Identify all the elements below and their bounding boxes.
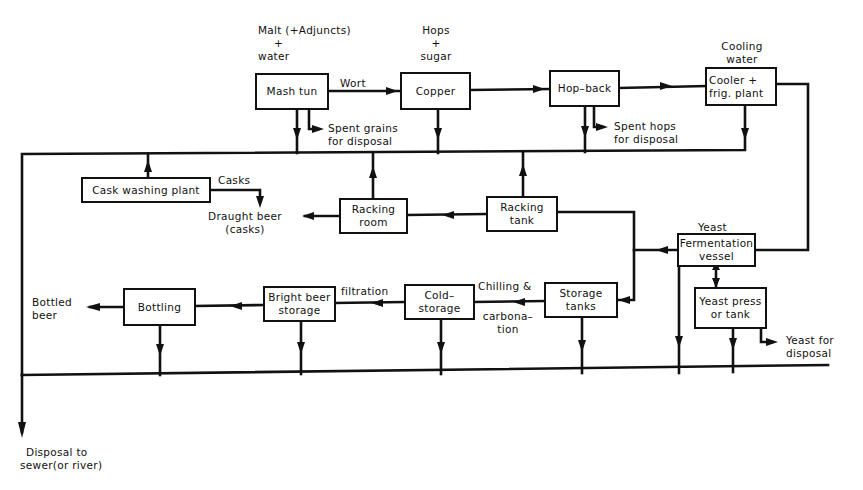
racking-room-label-line1: Racking: [352, 203, 396, 216]
flow-casks: Casks: [218, 174, 250, 187]
box-cooler: Cooler + frig. plant: [706, 68, 776, 105]
flow-bottled-beer: Bottled beer: [32, 296, 72, 322]
input-hops: Hops + sugar: [414, 24, 458, 63]
racking-tank-label-line1: Racking: [500, 201, 544, 214]
flow-chilling: Chilling &: [478, 280, 532, 293]
flow-draught-beer: Draught beer (casks): [200, 210, 290, 236]
cask-washing-label: Cask washing plant: [92, 184, 200, 197]
input-hops-line2: +: [414, 37, 458, 50]
wort-label: Wort: [340, 77, 366, 89]
hop-back-label: Hop–back: [558, 82, 612, 95]
box-storage-tanks: Storage tanks: [545, 283, 617, 317]
box-bright-beer-storage: Bright beer storage: [264, 287, 335, 321]
flow-spent-grains: Spent grains for disposal: [328, 122, 398, 148]
cold-storage-label-line2: storage: [419, 302, 461, 315]
chilling-line1: Chilling &: [478, 280, 532, 293]
flow-sewer-disposal: Disposal to sewer(or river): [20, 446, 102, 472]
cooler-label-line2: frig. plant: [709, 87, 763, 100]
fermentation-label-line2: vessel: [699, 250, 734, 263]
mash-tun-label: Mash tun: [267, 85, 318, 98]
spent-hops-line1: Spent hops: [614, 120, 678, 133]
racking-tank-label-line2: tank: [510, 214, 535, 227]
flow-yeast-disposal: Yeast for disposal: [786, 334, 834, 360]
bottled-line2: beer: [32, 309, 72, 322]
box-racking-tank: Racking tank: [487, 197, 557, 231]
input-hops-line3: sugar: [414, 50, 458, 63]
bright-beer-label-line1: Bright beer: [268, 291, 330, 304]
flow-spent-hops: Spent hops for disposal: [614, 120, 678, 146]
spent-grains-line1: Spent grains: [328, 122, 398, 135]
box-cold-storage: Cold– storage: [405, 285, 474, 319]
sewer-line2: sewer(or river): [20, 459, 102, 472]
fermentation-label-line1: Fermentation: [680, 237, 754, 250]
box-cask-washing: Cask washing plant: [82, 178, 210, 202]
input-malt-line3: water: [258, 50, 351, 63]
input-malt: Malt (+Adjuncts) + water: [258, 24, 351, 63]
sewer-line1: Disposal to: [20, 446, 102, 459]
box-fermentation-vessel: Fermentation vessel: [678, 234, 755, 266]
box-mash-tun: Mash tun: [256, 74, 328, 109]
draught-line1: Draught beer: [200, 210, 290, 223]
copper-label: Copper: [416, 85, 456, 98]
filtration-label: filtration: [341, 285, 389, 297]
spent-grains-line2: for disposal: [328, 135, 398, 148]
box-hop-back: Hop–back: [550, 71, 619, 106]
draught-line2: (casks): [200, 223, 290, 236]
yeast-press-label-line2: or tank: [711, 308, 750, 321]
yeast-disposal-line1: Yeast for: [786, 334, 834, 347]
yeast-disposal-line2: disposal: [786, 347, 834, 360]
input-yeast: Yeast: [698, 221, 727, 234]
flow-carbonation: carbona– tion: [482, 310, 534, 336]
chilling-line2: carbona–: [482, 310, 534, 323]
input-hops-line1: Hops: [414, 24, 458, 37]
cooler-label-line1: Cooler +: [709, 74, 757, 87]
box-yeast-press: Yeast press or tank: [695, 288, 766, 328]
box-bottling: Bottling: [124, 289, 195, 325]
bottled-line1: Bottled: [32, 296, 72, 309]
input-cooling-line2: water: [712, 53, 772, 66]
input-yeast-label: Yeast: [698, 221, 727, 233]
cold-storage-label-line1: Cold–: [424, 289, 454, 302]
bright-beer-label-line2: storage: [279, 304, 321, 317]
storage-tanks-label-line2: tanks: [566, 300, 596, 313]
spent-hops-line2: for disposal: [614, 133, 678, 146]
flow-filtration: filtration: [341, 285, 389, 298]
box-racking-room: Racking room: [340, 199, 407, 233]
input-malt-line2: +: [258, 37, 351, 50]
input-cooling-water: Cooling water: [712, 40, 772, 66]
input-malt-line1: Malt (+Adjuncts): [258, 24, 351, 37]
box-copper: Copper: [401, 73, 470, 109]
storage-tanks-label-line1: Storage: [559, 287, 602, 300]
flow-wort: Wort: [340, 77, 366, 90]
racking-room-label-line2: room: [359, 216, 387, 229]
yeast-press-label-line1: Yeast press: [699, 295, 761, 308]
input-cooling-line1: Cooling: [712, 40, 772, 53]
bottling-label: Bottling: [138, 301, 181, 314]
chilling-line3: tion: [482, 323, 534, 336]
casks-label: Casks: [218, 174, 250, 186]
